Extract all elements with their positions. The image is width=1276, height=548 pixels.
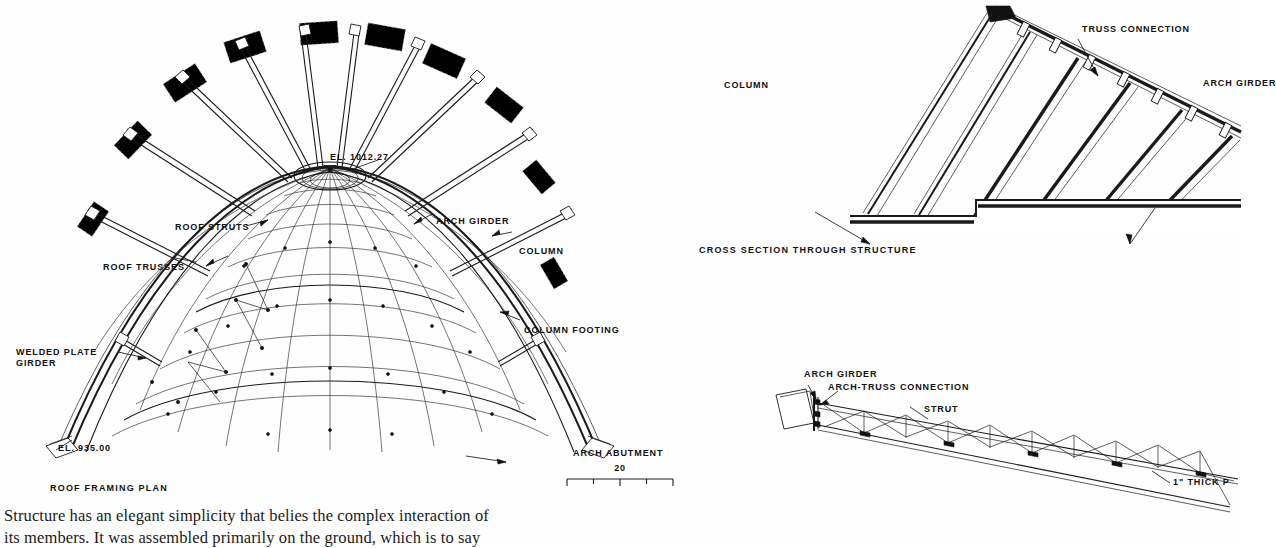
detail-label-strut: STRUT	[924, 404, 959, 415]
label-base-elevation: EL. 935.00	[58, 443, 111, 454]
plan-leader-lines	[56, 160, 520, 462]
label-column-footing: COLUMN FOOTING	[524, 325, 620, 336]
detail-truss-bottom-chord	[818, 425, 1230, 512]
detail-arch-girder-block	[776, 389, 814, 429]
plan-scale-bar: 20	[565, 463, 675, 489]
section-ground-fill	[850, 200, 1241, 238]
scale-bar-ticks	[565, 475, 675, 487]
cross-section-figure: COLUMN TRUSS CONNECTION ARCH GIRDER CROS…	[700, 0, 1241, 270]
body-line-2: its members. It was assembled primarily …	[4, 527, 644, 548]
label-welded-plate-girder: WELDED PLATE GIRDER	[16, 347, 97, 369]
body-line-1: Structure has an elegant simplicity that…	[4, 505, 644, 527]
section-label-truss-connection: TRUSS CONNECTION	[1082, 24, 1190, 35]
roof-truss-web-diagonals	[188, 264, 268, 402]
label-arch-girder: ARCH GIRDER	[436, 216, 509, 227]
detail-label-arch-truss-connection: ARCH-TRUSS CONNECTION	[828, 382, 969, 393]
label-roof-struts: ROOF STRUTS	[175, 222, 249, 233]
section-label-arch-girder: ARCH GIRDER	[1203, 78, 1276, 89]
detail-label-thick-plate: 1" THICK P	[1173, 477, 1230, 488]
detail-label-arch-girder: ARCH GIRDER	[804, 369, 877, 380]
section-apex-node	[986, 6, 1016, 22]
plan-leader-arrowheads	[138, 217, 509, 464]
cross-section-drawing	[700, 0, 1241, 270]
plan-caption: ROOF FRAMING PLAN	[50, 483, 168, 494]
section-truss-connection-plates	[1017, 21, 1232, 138]
label-column: COLUMN	[519, 246, 564, 257]
roof-framing-plan-drawing	[0, 0, 700, 500]
detail-truss-verticals	[864, 412, 1200, 474]
truss-detail-figure: ARCH GIRDER ARCH-TRUSS CONNECTION STRUT …	[760, 355, 1241, 520]
section-caption: CROSS SECTION THROUGH STRUCTURE	[699, 245, 917, 256]
roof-framing-plan-figure: EL. 1012.27 ROOF STRUTS ROOF TRUSSES ARC…	[0, 0, 700, 500]
body-paragraph: Structure has an elegant simplicity that…	[4, 505, 644, 548]
truss-web-node-markers	[150, 262, 269, 403]
scale-bar-value: 20	[565, 463, 675, 473]
label-apex-elevation: EL. 1012.27	[330, 152, 389, 163]
label-roof-trusses: ROOF TRUSSES	[103, 262, 185, 273]
dome-meridian-ribs	[94, 168, 566, 452]
section-label-column: COLUMN	[724, 80, 769, 91]
detail-truss-node-gussets	[860, 431, 1206, 477]
label-arch-abutment: ARCH ABUTMENT	[573, 448, 663, 459]
